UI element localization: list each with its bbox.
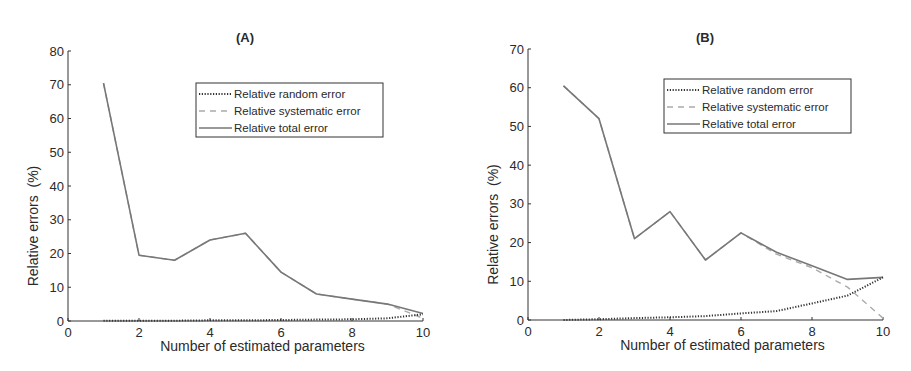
x-tick-label: 2 — [135, 325, 142, 340]
legend-entry: Relative systematic error — [702, 101, 829, 113]
figure: 010203040506070800246810(A)Number of est… — [0, 0, 911, 371]
y-tick-label: 70 — [510, 42, 524, 57]
series-relative-random-error — [564, 277, 884, 320]
chart-title: (A) — [236, 30, 254, 45]
y-tick-label: 80 — [50, 44, 64, 59]
series-relative-random-error — [104, 314, 424, 320]
x-tick-label: 0 — [64, 325, 71, 340]
y-tick-label: 30 — [510, 196, 524, 211]
x-tick-label: 10 — [876, 324, 890, 339]
y-tick-label: 30 — [50, 212, 64, 227]
chart-title: (B) — [696, 30, 714, 45]
legend: Relative random errorRelative systematic… — [196, 83, 383, 137]
y-tick-label: 60 — [510, 80, 524, 95]
y-tick-label: 70 — [50, 77, 64, 92]
y-tick-label: 50 — [50, 145, 64, 160]
legend-entry: Relative total error — [234, 122, 328, 134]
y-tick-label: 40 — [50, 179, 64, 194]
legend-entry: Relative random error — [234, 88, 345, 100]
legend-entry: Relative total error — [702, 118, 796, 130]
y-tick-label: 40 — [510, 158, 524, 173]
y-tick-label: 0 — [517, 313, 524, 328]
x-tick-label: 0 — [524, 324, 531, 339]
x-axis-label: Number of estimated parameters — [160, 338, 365, 354]
y-tick-label: 10 — [50, 280, 64, 295]
chart-b: 0102030405060700246810(B)Number of estim… — [485, 30, 890, 353]
chart-a: 010203040506070800246810(A)Number of est… — [25, 30, 430, 354]
legend-entry: Relative systematic error — [234, 105, 361, 117]
x-tick-label: 10 — [416, 325, 430, 340]
y-tick-label: 20 — [50, 246, 64, 261]
y-tick-label: 60 — [50, 111, 64, 126]
y-axis-label: Relative errors (%) — [485, 164, 501, 285]
legend-entry: Relative random error — [702, 84, 813, 96]
x-tick-label: 2 — [595, 324, 602, 339]
y-tick-label: 0 — [57, 314, 64, 329]
y-tick-label: 10 — [510, 274, 524, 289]
x-axis-label: Number of estimated parameters — [620, 337, 825, 353]
y-axis-label: Relative errors (%) — [25, 166, 41, 287]
y-tick-label: 50 — [510, 119, 524, 134]
y-tick-label: 20 — [510, 235, 524, 250]
legend: Relative random errorRelative systematic… — [664, 79, 851, 133]
